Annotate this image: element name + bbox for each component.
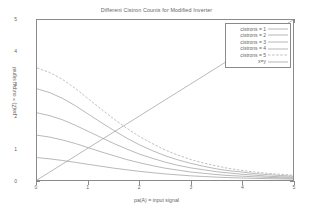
- x-tick-mark: [36, 181, 37, 185]
- legend-item[interactable]: cistrons = 2: [228, 32, 288, 39]
- legend-line-sample: [268, 26, 288, 32]
- y-tick-label: 3: [0, 81, 17, 87]
- series-line: [37, 113, 293, 177]
- x-tick-mark: [139, 181, 140, 185]
- legend-item[interactable]: x=y: [228, 58, 288, 65]
- legend-line-sample: [268, 52, 288, 58]
- legend-label: x=y: [258, 58, 266, 65]
- chart-legend: cistrons = 1cistrons = 2cistrons = 3cist…: [225, 23, 291, 68]
- y-tick-label: 4: [0, 48, 17, 54]
- x-axis-label: pa(A) = input signal: [0, 197, 313, 203]
- chart-container: Different Cistron Counts for Modified In…: [0, 0, 313, 218]
- legend-item[interactable]: cistrons = 3: [228, 39, 288, 46]
- y-tick-label: 5: [0, 16, 17, 22]
- chart-title: Different Cistron Counts for Modified In…: [0, 7, 313, 13]
- x-tick-mark: [294, 181, 295, 185]
- legend-label: cistrons = 2: [240, 32, 266, 39]
- series-line: [37, 89, 293, 176]
- legend-item[interactable]: cistrons = 4: [228, 45, 288, 52]
- legend-label: cistrons = 5: [240, 52, 266, 59]
- y-tick-label: 1: [0, 146, 17, 152]
- x-tick-mark: [242, 181, 243, 185]
- x-tick-mark: [191, 181, 192, 185]
- legend-item[interactable]: cistrons = 1: [228, 26, 288, 33]
- y-tick-label: 0: [0, 178, 17, 184]
- legend-line-sample: [268, 59, 288, 65]
- legend-label: cistrons = 3: [240, 39, 266, 46]
- legend-label: cistrons = 4: [240, 45, 266, 52]
- legend-item[interactable]: cistrons = 5: [228, 52, 288, 59]
- x-tick-mark: [88, 181, 89, 185]
- legend-label: cistrons = 1: [240, 26, 266, 33]
- x-tick-mark: [294, 19, 295, 23]
- series-line: [37, 68, 293, 175]
- legend-line-sample: [268, 39, 288, 45]
- legend-line-sample: [268, 46, 288, 52]
- y-tick-label: 2: [0, 113, 17, 119]
- legend-line-sample: [268, 32, 288, 38]
- y-axis-label: pa(Z) = output signal: [11, 41, 17, 141]
